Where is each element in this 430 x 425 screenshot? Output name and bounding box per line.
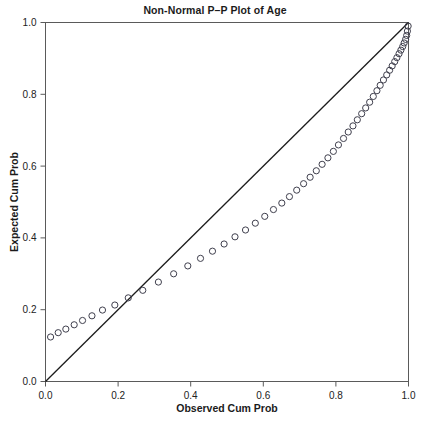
data-point bbox=[363, 105, 369, 111]
data-point bbox=[330, 148, 336, 154]
y-tick-label: 1.0 bbox=[23, 17, 37, 28]
reference-line bbox=[46, 23, 409, 382]
data-point bbox=[140, 287, 146, 293]
x-tick-label: 0.8 bbox=[329, 390, 343, 401]
data-point bbox=[185, 263, 191, 269]
data-point bbox=[401, 40, 407, 46]
data-point bbox=[325, 155, 331, 161]
y-tick-label: 0.8 bbox=[23, 89, 37, 100]
data-point bbox=[319, 161, 325, 167]
data-point bbox=[55, 330, 61, 336]
data-point bbox=[294, 187, 300, 193]
data-point-markers bbox=[47, 23, 411, 340]
pp-plot-figure: Non-Normal P–P Plot of Age 0.00.20.40.60… bbox=[0, 0, 430, 425]
x-axis-tick-labels: 0.00.20.40.60.81.0 bbox=[39, 390, 416, 401]
x-tick-label: 0.0 bbox=[39, 390, 53, 401]
data-point bbox=[155, 279, 161, 285]
plot-canvas: 0.00.20.40.60.81.0 0.00.20.40.60.81.0 Ob… bbox=[0, 0, 430, 425]
data-point bbox=[232, 234, 238, 240]
x-tick-label: 0.2 bbox=[111, 390, 125, 401]
data-point bbox=[270, 206, 276, 212]
x-tick-label: 0.4 bbox=[184, 390, 198, 401]
data-point bbox=[71, 322, 77, 328]
data-point bbox=[286, 194, 292, 200]
data-point bbox=[313, 168, 319, 174]
diagonal-reference-line bbox=[46, 23, 409, 382]
data-point bbox=[335, 142, 341, 148]
data-point bbox=[300, 181, 306, 187]
data-point bbox=[89, 313, 95, 319]
data-point bbox=[350, 123, 356, 129]
data-point bbox=[400, 43, 406, 49]
data-point bbox=[47, 334, 53, 340]
y-tick-label: 0.4 bbox=[23, 232, 37, 243]
data-point bbox=[279, 200, 285, 206]
data-point bbox=[359, 111, 365, 117]
data-point bbox=[252, 220, 258, 226]
data-point bbox=[209, 248, 215, 254]
data-point bbox=[79, 317, 85, 323]
data-point bbox=[262, 213, 268, 219]
data-point bbox=[197, 255, 203, 261]
data-point bbox=[63, 326, 69, 332]
y-tick-label: 0.0 bbox=[23, 376, 37, 387]
x-tick-label: 1.0 bbox=[402, 390, 416, 401]
data-point bbox=[112, 302, 118, 308]
data-point bbox=[354, 117, 360, 123]
data-point bbox=[99, 307, 105, 313]
data-point bbox=[398, 47, 404, 53]
y-axis-ticks bbox=[41, 23, 46, 382]
data-point bbox=[171, 271, 177, 277]
x-axis-title: Observed Cum Prob bbox=[176, 402, 278, 414]
y-tick-label: 0.2 bbox=[23, 304, 37, 315]
data-point bbox=[403, 36, 409, 42]
y-tick-label: 0.6 bbox=[23, 161, 37, 172]
data-point bbox=[242, 227, 248, 233]
y-axis-title: Expected Cum Prob bbox=[8, 152, 20, 252]
data-point bbox=[384, 72, 390, 78]
data-point bbox=[221, 241, 227, 247]
data-point bbox=[370, 93, 376, 99]
data-point bbox=[367, 99, 373, 105]
x-tick-label: 0.6 bbox=[256, 390, 270, 401]
y-axis-tick-labels: 0.00.20.40.60.81.0 bbox=[23, 17, 37, 387]
data-point bbox=[345, 129, 351, 135]
data-point bbox=[340, 135, 346, 141]
x-axis-ticks bbox=[46, 382, 409, 387]
data-point bbox=[307, 174, 313, 180]
